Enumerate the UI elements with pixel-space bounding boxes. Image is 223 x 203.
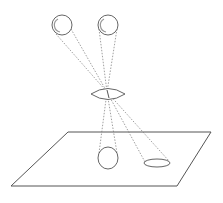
projection-circle bbox=[98, 147, 118, 169]
ground-plane bbox=[11, 132, 211, 186]
projection-ellipse bbox=[144, 159, 170, 167]
projection-diagram bbox=[0, 0, 223, 203]
rays-to-circle bbox=[99, 92, 117, 153]
lens bbox=[91, 89, 125, 100]
rays-left-sphere bbox=[56, 29, 107, 92]
sphere-left bbox=[52, 15, 72, 35]
sphere-right bbox=[98, 15, 118, 35]
rays-right-sphere bbox=[99, 29, 117, 92]
figure-caption bbox=[6, 196, 218, 203]
